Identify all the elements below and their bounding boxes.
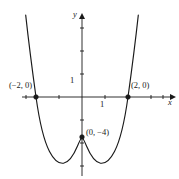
marked-point-right-root xyxy=(126,95,131,100)
y-axis-arrow-icon xyxy=(79,13,85,19)
x-axis-tick-label-1: 1 xyxy=(100,100,104,109)
y-axis-label: y xyxy=(73,10,77,19)
label-y-intercept: (0, −4) xyxy=(86,128,109,137)
y-axis-tick-label-1: 1 xyxy=(70,76,74,85)
marked-point-left-root xyxy=(34,95,39,100)
graph-figure: (−2, 0) (2, 0) (0, −4) 1 1 y x xyxy=(0,0,179,179)
label-right-root: (2, 0) xyxy=(131,81,149,90)
label-left-root: (−2, 0) xyxy=(9,81,32,90)
marked-point-y-intercept xyxy=(80,135,85,140)
x-axis-label: x xyxy=(168,98,172,107)
